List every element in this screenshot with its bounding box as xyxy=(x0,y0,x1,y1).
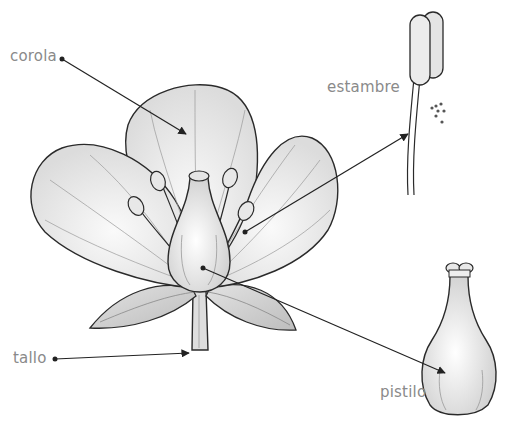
pollen-grains xyxy=(430,102,445,123)
label-pistilo: pistilo xyxy=(380,385,426,400)
stem xyxy=(192,290,208,350)
stamen-detail xyxy=(407,12,445,195)
label-estambre: estambre xyxy=(327,80,400,95)
label-corola: corola xyxy=(10,49,57,64)
pistil-detail xyxy=(422,263,496,415)
label-tallo: tallo xyxy=(13,351,47,366)
flower-diagram: corola estambre tallo pistilo xyxy=(0,0,506,423)
flower-illustration xyxy=(0,0,506,423)
